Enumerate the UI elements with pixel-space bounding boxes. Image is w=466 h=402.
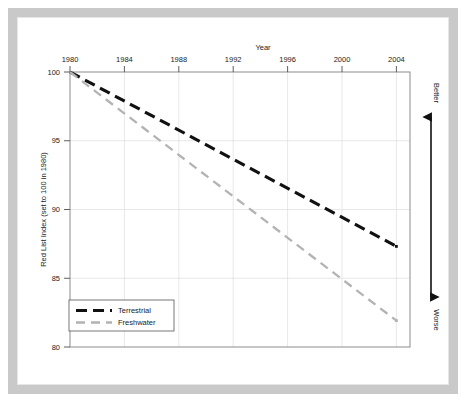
xticklabel-2004: 2004 [388,55,405,64]
y-axis-title: Red List Index (set to 100 in 1980) [39,152,48,267]
endpoint-marker-freshwater [395,319,398,322]
chart-svg: 1980 1984 1988 1992 1996 2000 2004 100 9… [0,0,466,402]
yticklabel-80: 80 [52,343,60,352]
xticklabel-1996: 1996 [279,55,296,64]
chart-legend[interactable]: Terrestrial Freshwater [69,300,174,331]
x-axis-tick-labels: 1980 1984 1988 1992 1996 2000 2004 [62,55,405,64]
x-axis-title: Year [255,43,271,52]
yticklabel-95: 95 [52,136,60,145]
direction-annotation: Better Worse [431,83,441,331]
annotation-worse: Worse [432,309,441,331]
xticklabel-1992: 1992 [225,55,242,64]
annotation-better: Better [432,83,441,104]
line-chart: 1980 1984 1988 1992 1996 2000 2004 100 9… [0,0,466,402]
xticklabel-1984: 1984 [116,55,133,64]
endpoint-marker-terrestrial [395,245,398,248]
x-axis-ticks [70,66,396,72]
xticklabel-1988: 1988 [170,55,187,64]
y-axis-tick-labels: 100 95 90 85 80 [47,68,60,352]
yticklabel-90: 90 [52,205,60,214]
yticklabel-85: 85 [52,274,60,283]
legend-label-freshwater: Freshwater [118,318,156,327]
figure-frame: 1980 1984 1988 1992 1996 2000 2004 100 9… [0,0,466,402]
data-series-group [70,72,398,322]
xticklabel-1980: 1980 [62,55,79,64]
xticklabel-2000: 2000 [334,55,351,64]
legend-label-terrestrial: Terrestrial [118,306,151,315]
yticklabel-100: 100 [47,68,60,77]
